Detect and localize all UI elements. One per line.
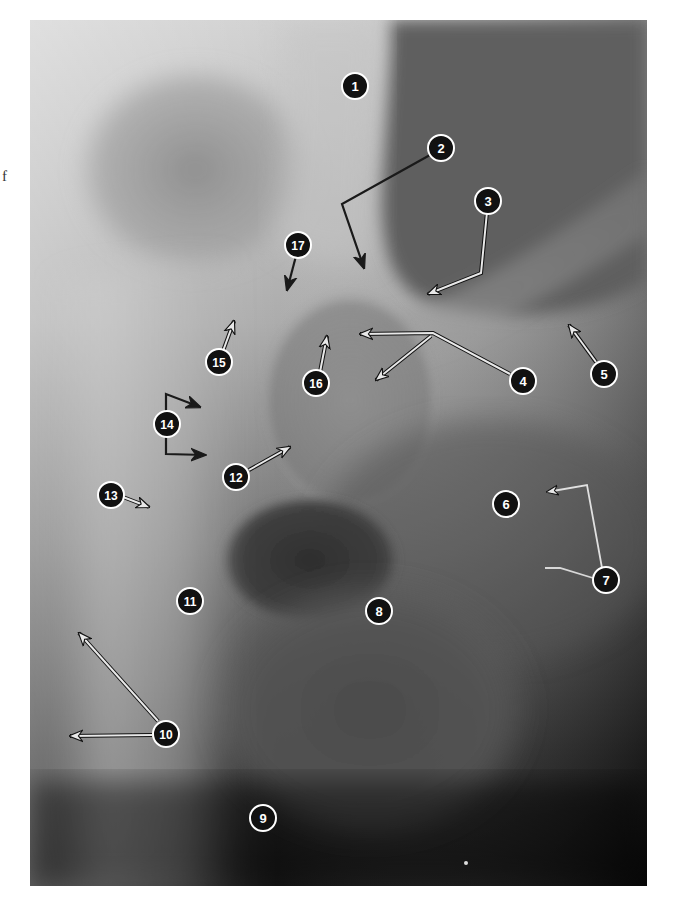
marker-1: 1 (342, 73, 368, 99)
svg-text:10: 10 (159, 728, 173, 742)
annotation-layer: 1 2 3 4 5 6 7 8 9 10 11 12 (0, 0, 675, 916)
marker-5: 5 (591, 361, 617, 387)
svg-text:6: 6 (502, 497, 509, 512)
marker-4: 4 (510, 368, 536, 394)
svg-text:4: 4 (519, 374, 527, 389)
marker-10: 10 (153, 721, 179, 747)
marker-3: 3 (475, 188, 501, 214)
arrow-12 (249, 447, 290, 470)
svg-text:8: 8 (375, 604, 382, 619)
svg-text:1: 1 (351, 79, 358, 94)
marker-15: 15 (206, 349, 232, 375)
arrow-4 (360, 333, 510, 380)
svg-text:3: 3 (484, 194, 491, 209)
marker-12: 12 (223, 464, 249, 490)
marker-16: 16 (303, 370, 329, 396)
arrow-16 (320, 336, 327, 372)
svg-text:14: 14 (160, 418, 174, 432)
marker-9: 9 (250, 805, 276, 831)
marker-17: 17 (285, 232, 311, 258)
marker-8: 8 (366, 598, 392, 624)
svg-text:7: 7 (602, 573, 609, 588)
svg-text:2: 2 (437, 141, 444, 156)
arrow-15 (223, 321, 234, 351)
svg-text:9: 9 (259, 811, 266, 826)
marker-14: 14 (154, 411, 180, 437)
marker-11: 11 (177, 588, 203, 614)
svg-text:11: 11 (184, 595, 197, 609)
arrow-17 (287, 256, 296, 290)
arrow-3 (428, 212, 487, 294)
svg-text:17: 17 (291, 239, 305, 253)
arrow-13 (123, 497, 149, 507)
marker-7: 7 (593, 567, 619, 593)
svg-text:15: 15 (212, 356, 226, 370)
marker-13: 13 (98, 482, 124, 508)
marker-2: 2 (428, 135, 454, 161)
svg-text:5: 5 (600, 367, 607, 382)
arrow-2 (342, 155, 430, 268)
svg-text:12: 12 (229, 471, 243, 485)
marker-6: 6 (493, 491, 519, 517)
svg-text:13: 13 (104, 489, 118, 503)
arrow-5 (569, 325, 596, 362)
arrow-7 (545, 485, 602, 578)
arrow-10 (70, 633, 158, 736)
svg-text:16: 16 (309, 377, 323, 391)
